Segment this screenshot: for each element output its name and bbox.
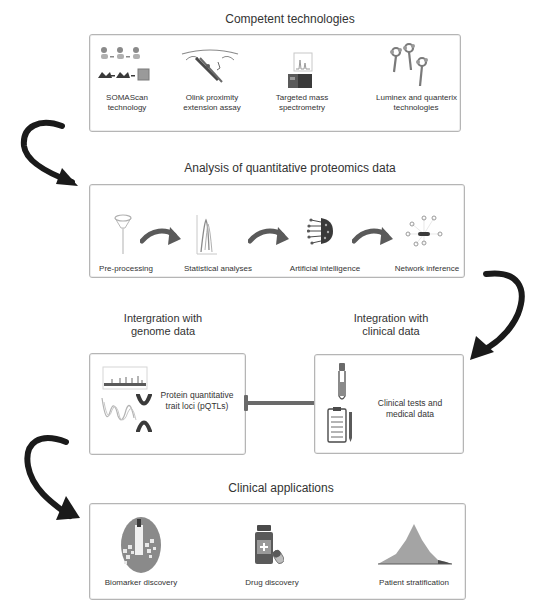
clipboard-icon [326,406,356,444]
clinical-tests-label-line2: medical data [372,409,448,420]
test-tube-icon [336,362,348,402]
clinical-title-line1: Integration with [336,312,446,325]
olink-label: Olink proximity extension assay [172,93,252,113]
step-arrow-3-icon [352,225,394,247]
somascan-label-line1: SOMAScan [92,93,162,103]
statistical-analyses-label: Statistical analyses [180,264,256,274]
mass-spectrometer-icon [286,52,316,90]
preprocessing-label: Pre-processing [96,264,156,274]
artificial-intelligence-label: Artificial intelligence [284,264,366,274]
olink-antibody-dna-icon [180,44,240,86]
neural-brain-icon [307,216,335,246]
mass-spec-label-line1: Targeted mass [266,93,338,103]
somascan-label: SOMAScan technology [92,93,162,113]
genome-title-line1: Intergration with [108,312,218,325]
funnel-filter-icon [114,214,132,256]
flow-arrow-1-icon [10,118,82,190]
biomarker-circle-icon [120,515,162,575]
luminex-label: Luminex and quanterix technologies [376,93,456,113]
bead-antibody-icon [386,42,436,90]
clinical-tests-label: Clinical tests and medical data [372,398,448,420]
genome-title-line2: genome data [108,325,218,338]
section-title-genome: Intergration with genome data [108,312,218,338]
drug-discovery-label: Drug discovery [242,578,302,588]
flow-arrow-3-icon [10,432,82,532]
distribution-histogram-icon [376,518,454,568]
step-arrow-2-icon [248,225,290,247]
section-title-technologies: Competent technologies [210,12,370,26]
pqtl-label: Protein quantitative trait loci (pQTLs) [156,390,238,412]
section-title-applications: Clinical applications [196,481,366,495]
olink-label-line2: extension assay [172,103,252,113]
medicine-bottle-icon [254,524,284,566]
section-title-analysis: Analysis of quantitative proteomics data [170,161,410,175]
network-graph-icon [404,212,444,252]
luminex-label-line2: technologies [376,103,456,113]
volcano-plot-icon [196,214,218,256]
luminex-label-line1: Luminex and quanterix [376,93,456,103]
manhattan-plot-icon [102,366,148,392]
somascan-aptamer-icon [96,44,162,88]
integration-connector [242,392,320,414]
step-arrow-1-icon [140,225,182,247]
clinical-title-line2: clinical data [336,325,446,338]
clinical-tests-label-line1: Clinical tests and [372,398,448,409]
network-inference-label: Network inference [394,264,460,274]
mass-spec-label: Targeted mass spectrometry [266,93,338,113]
mass-spec-label-line2: spectrometry [266,103,338,113]
olink-label-line1: Olink proximity [172,93,252,103]
flow-arrow-2-icon [466,268,538,364]
pqtl-label-line1: Protein quantitative [156,390,238,401]
dna-helix-icon [100,396,138,428]
biomarker-discovery-label: Biomarker discovery [102,578,180,588]
somascan-label-line2: technology [92,103,162,113]
patient-stratification-label: Patient stratification [374,578,454,588]
section-title-clinical: Integration with clinical data [336,312,446,338]
chromosome-icon [136,394,152,432]
pqtl-label-line2: trait loci (pQTLs) [156,401,238,412]
